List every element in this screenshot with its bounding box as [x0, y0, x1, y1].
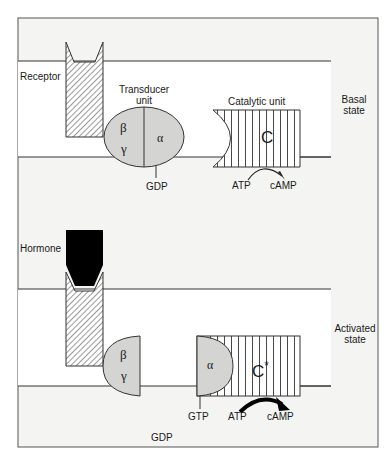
atp-label-basal: ATP — [232, 180, 251, 191]
beta-symbol: β — [120, 122, 127, 133]
transducer-label: Transducer unit — [114, 84, 174, 106]
camp-label-activated: cAMP — [267, 411, 294, 422]
catalytic-symbol: C — [261, 129, 273, 147]
atp-label-activated: ATP — [228, 411, 247, 422]
receptor-label: Receptor — [20, 71, 61, 82]
catalytic-unit-label: Catalytic unit — [228, 96, 285, 107]
activated-asterisk: * — [264, 359, 269, 373]
gtp-label: GTP — [188, 411, 209, 422]
diagram-canvas — [0, 0, 392, 463]
gamma-symbol-activated: γ — [121, 370, 127, 381]
alpha-symbol: α — [157, 133, 163, 144]
activated-state-label: Activated state — [325, 323, 385, 345]
gdp-label-basal: GDP — [146, 181, 168, 192]
camp-label-basal: cAMP — [270, 180, 297, 191]
basal-state-label: Basal state — [335, 94, 373, 116]
gdp-label-activated: GDP — [151, 432, 173, 443]
gamma-symbol: γ — [121, 143, 127, 154]
hormone — [66, 230, 103, 286]
beta-symbol-activated: β — [120, 349, 127, 360]
hormone-label: Hormone — [20, 243, 61, 254]
catalytic-symbol-activated: C* — [252, 357, 269, 381]
diagram: Receptor Transducer unit Catalytic unit … — [0, 0, 392, 463]
alpha-symbol-activated: α — [207, 360, 213, 371]
